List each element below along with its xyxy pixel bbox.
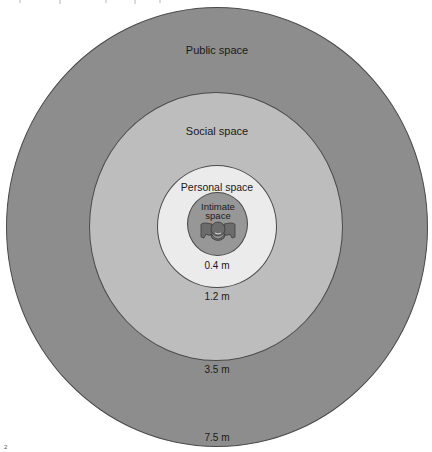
personal-distance-label: 1.2 m — [204, 292, 229, 302]
public-space-label: Public space — [186, 45, 248, 56]
top-edge-marks — [0, 0, 432, 6]
personal-space-label: Personal space — [181, 182, 253, 193]
person-icon — [198, 220, 238, 244]
public-distance-label: 7.5 m — [204, 433, 229, 443]
social-distance-label: 3.5 m — [204, 365, 229, 375]
corner-mark: 2 — [4, 444, 7, 450]
social-space-label: Social space — [186, 126, 248, 137]
intimate-distance-label: 0.4 m — [204, 261, 229, 271]
